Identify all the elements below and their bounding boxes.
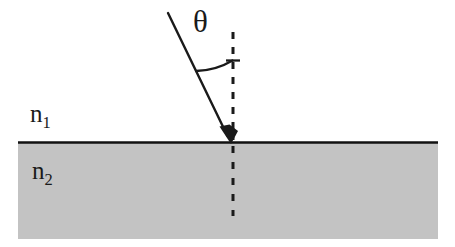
medium-upper-subscript: 1	[43, 113, 51, 132]
incident-ray-arrowhead	[220, 125, 239, 145]
medium-lower-region	[18, 142, 438, 239]
medium-lower-symbol: n	[32, 157, 45, 184]
refraction-diagram: n1 n2 θ	[0, 0, 455, 247]
angle-label: θ	[193, 6, 208, 37]
medium-lower-subscript: 2	[45, 170, 53, 189]
diagram-canvas	[0, 0, 455, 247]
medium-upper-label: n1	[30, 101, 51, 132]
medium-lower-label: n2	[32, 158, 53, 189]
angle-arc	[196, 61, 233, 72]
medium-upper-symbol: n	[30, 100, 43, 127]
